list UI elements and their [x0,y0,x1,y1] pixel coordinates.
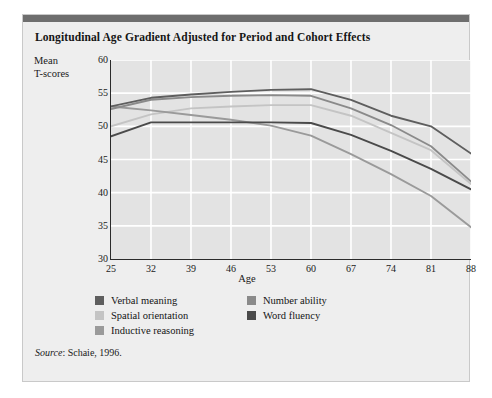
x-axis-title: Age [23,273,471,284]
y-tick-label: 40 [82,187,108,198]
legend-item-label: Verbal meaning [111,295,177,306]
legend-swatch-verbal-meaning [95,296,104,305]
legend-item-label: Spatial orientation [111,310,188,321]
legend-item-label: Inductive reasoning [111,325,194,336]
y-tick-label: 60 [82,54,108,65]
legend-item-label: Number ability [263,295,327,306]
series-line-number-ability [111,95,471,181]
series-line-spatial-orientation [111,105,471,184]
x-axis-line [110,259,471,260]
legend-column-right: Number abilityWord fluency [247,293,327,323]
plot-area: 30354045505560 25323946536067748188 [111,60,471,259]
y-tick-label: 55 [82,87,108,98]
legend-item: Word fluency [247,308,327,323]
legend-item: Number ability [247,293,327,308]
y-tick-label: 45 [82,154,108,165]
y-tick-label: 50 [82,120,108,131]
y-tick-label: 35 [82,220,108,231]
source-note: Source: Schaie, 1996. [35,347,122,358]
legend-item: Inductive reasoning [95,323,194,338]
source-prefix: Source [35,347,62,358]
y-axis-line [110,60,111,260]
legend-item: Spatial orientation [95,308,194,323]
legend-swatch-number-ability [247,296,256,305]
plot-canvas [111,60,471,259]
line-chart-svg [111,60,471,259]
series-line-inductive-reasoning [111,106,471,227]
y-axis-label-line2: T-scores [34,68,69,81]
legend-item: Verbal meaning [95,293,194,308]
y-axis-label: Mean T-scores [34,55,69,80]
source-text: : Schaie, 1996. [62,347,121,358]
figure-panel: Longitudinal Age Gradient Adjusted for P… [22,14,470,382]
legend-swatch-inductive-reasoning [95,326,104,335]
series-line-word-fluency [111,122,471,189]
figure-top-rule [23,15,469,22]
legend-swatch-spatial-orientation [95,311,104,320]
legend-item-label: Word fluency [263,310,320,321]
y-axis-label-line1: Mean [34,55,69,68]
legend-column-left: Verbal meaningSpatial orientationInducti… [95,293,194,338]
figure-title: Longitudinal Age Gradient Adjusted for P… [35,31,370,43]
legend-swatch-word-fluency [247,311,256,320]
